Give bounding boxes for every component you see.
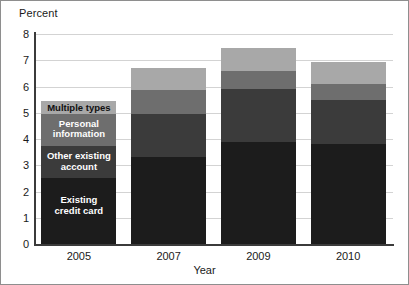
bar-segment[interactable] (221, 71, 296, 89)
series-legend-label: Multiple types (41, 102, 116, 113)
bar-segment[interactable] (131, 114, 206, 157)
y-axis-tick-label: 2 (7, 186, 29, 198)
x-axis-tick-label: 2007 (129, 250, 209, 262)
x-axis-tick-label: 2010 (308, 250, 388, 262)
y-axis-tick-label: 8 (7, 28, 29, 40)
x-axis-tick-label: 2005 (39, 250, 119, 262)
bar-group[interactable] (131, 34, 206, 244)
bar-segment[interactable] (311, 144, 386, 244)
x-axis-title: Year (1, 264, 408, 276)
y-axis-tick-label: 1 (7, 212, 29, 224)
bar-segment[interactable] (131, 157, 206, 244)
y-axis-tick-label: 3 (7, 159, 29, 171)
y-axis-line (34, 32, 36, 246)
bar-segment[interactable] (311, 62, 386, 84)
bar-group[interactable] (311, 34, 386, 244)
bar-segment[interactable] (131, 68, 206, 90)
bar-group[interactable] (221, 34, 296, 244)
y-axis-tick-label: 0 (7, 238, 29, 250)
bar-segment[interactable] (221, 48, 296, 70)
series-legend-label: Other existing account (41, 151, 116, 172)
bar-segment[interactable]: Other existing account (41, 146, 116, 179)
y-axis-tick-labels: 012345678 (1, 34, 29, 244)
bar-segment[interactable]: Multiple types (41, 101, 116, 114)
y-axis-tick-label: 5 (7, 107, 29, 119)
bar-segment[interactable] (311, 100, 386, 145)
bar-segment[interactable] (311, 84, 386, 100)
x-axis-tick-label: 2009 (218, 250, 298, 262)
chart-figure: Percent 012345678 Existing credit cardOt… (0, 0, 409, 285)
bar-segment[interactable] (131, 90, 206, 114)
y-axis-title: Percent (19, 7, 58, 19)
bar-segment[interactable] (221, 142, 296, 244)
plot-area: Existing credit cardOther existing accou… (34, 34, 393, 244)
y-axis-tick-label: 4 (7, 133, 29, 145)
bar-segment[interactable]: Personal information (41, 114, 116, 146)
x-axis-line (34, 244, 394, 246)
bar-segment[interactable] (221, 89, 296, 142)
bar-segment[interactable]: Existing credit card (41, 178, 116, 244)
y-axis-tick-label: 7 (7, 54, 29, 66)
series-legend-label: Existing credit card (41, 195, 116, 216)
series-legend-label: Personal information (41, 119, 116, 140)
bar-group[interactable]: Existing credit cardOther existing accou… (41, 34, 116, 244)
y-axis-tick-label: 6 (7, 81, 29, 93)
